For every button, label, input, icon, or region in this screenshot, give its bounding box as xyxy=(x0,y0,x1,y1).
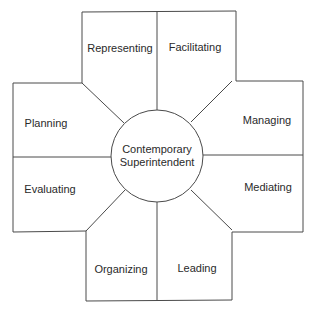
segment-facilitating: Facilitating xyxy=(169,41,222,54)
center-label-line2: Superintendent xyxy=(120,156,195,169)
segment-leading: Leading xyxy=(177,262,216,275)
segment-representing: Representing xyxy=(87,42,152,55)
center-label: Contemporary Superintendent xyxy=(120,143,195,169)
superintendent-roles-diagram: Representing Facilitating Managing Media… xyxy=(0,0,311,312)
segment-evaluating: Evaluating xyxy=(24,183,75,196)
divider-top-left xyxy=(82,83,124,123)
segment-planning: Planning xyxy=(25,117,68,130)
divider-top-right xyxy=(191,81,232,122)
divider-bottom-left xyxy=(86,190,125,231)
segment-organizing: Organizing xyxy=(94,263,147,276)
segment-managing: Managing xyxy=(243,114,291,127)
segment-mediating: Mediating xyxy=(244,181,292,194)
divider-bottom-right xyxy=(191,190,232,230)
center-label-line1: Contemporary xyxy=(120,143,195,156)
